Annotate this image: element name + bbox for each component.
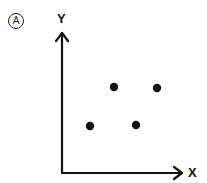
data-point [153,84,161,92]
data-point [86,122,94,130]
axes [56,33,182,179]
data-point [110,83,118,91]
scatter-plot [0,0,207,183]
data-point [132,121,140,129]
data-points [86,83,161,130]
